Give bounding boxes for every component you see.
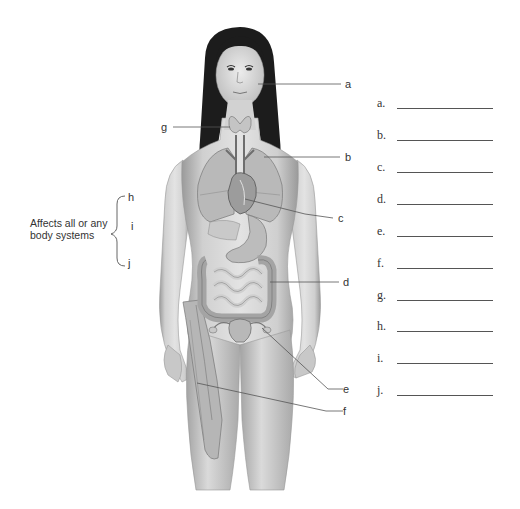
answer-blank-e[interactable] xyxy=(397,236,493,237)
answer-letter: g. xyxy=(377,288,386,303)
right-leg xyxy=(240,330,294,490)
bracket-label-h: h xyxy=(128,191,134,203)
answer-blank-b[interactable] xyxy=(397,140,493,141)
answer-row-j: j. xyxy=(377,383,507,399)
answer-letter: h. xyxy=(377,319,386,334)
answer-blank-g[interactable] xyxy=(397,300,493,301)
bracket-note-line-2: body systems xyxy=(30,229,107,241)
answer-row-c: c. xyxy=(377,160,507,176)
head xyxy=(216,43,264,107)
callout-label-f: f xyxy=(343,405,346,417)
answer-letter: e. xyxy=(377,224,385,239)
bracket xyxy=(111,196,125,266)
answer-letter: b. xyxy=(377,128,386,143)
answer-letter: a. xyxy=(377,96,385,111)
answer-row-f: f. xyxy=(377,256,507,272)
answer-blank-c[interactable] xyxy=(397,172,493,173)
answer-row-a: a. xyxy=(377,96,507,112)
callout-label-g: g xyxy=(161,121,167,133)
answer-blank-j[interactable] xyxy=(397,395,493,396)
bracket-note-line-1: Affects all or any xyxy=(30,217,107,229)
bracket-note: Affects all or any body systems xyxy=(30,217,107,241)
bracket-label-j: j xyxy=(128,257,130,269)
answer-letter: d. xyxy=(377,192,386,207)
callout-label-a: a xyxy=(345,78,351,90)
answer-row-b: b. xyxy=(377,128,507,144)
answer-blank-a[interactable] xyxy=(397,108,493,109)
answer-letter: i. xyxy=(377,351,383,366)
answer-blank-d[interactable] xyxy=(397,204,493,205)
answer-blank-i[interactable] xyxy=(397,363,493,364)
callout-label-e: e xyxy=(343,383,349,395)
answer-blank-f[interactable] xyxy=(397,268,493,269)
uterus xyxy=(229,319,251,342)
callout-label-c: c xyxy=(338,212,344,224)
answer-row-h: h. xyxy=(377,319,507,335)
bracket-label-i: i xyxy=(131,220,133,232)
answer-letter: c. xyxy=(377,160,385,175)
answer-row-g: g. xyxy=(377,288,507,304)
callout-label-b: b xyxy=(345,151,351,163)
answer-letter: j. xyxy=(377,383,383,398)
callout-label-d: d xyxy=(343,276,349,288)
answer-row-i: i. xyxy=(377,351,507,367)
answer-row-e: e. xyxy=(377,224,507,240)
body-diagram xyxy=(0,0,520,509)
answer-row-d: d. xyxy=(377,192,507,208)
answer-blank-h[interactable] xyxy=(397,331,493,332)
answer-letter: f. xyxy=(377,256,384,271)
